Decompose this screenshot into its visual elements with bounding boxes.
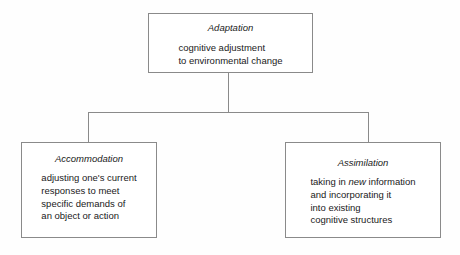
node-adaptation-body-line-1: cognitive adjustment bbox=[178, 42, 265, 53]
node-assimilation-body-line-1-suffix: information bbox=[366, 176, 416, 187]
node-assimilation-title: Assimilation bbox=[338, 158, 389, 168]
node-adaptation-body-line-2: to environmental change bbox=[178, 55, 282, 66]
node-assimilation-body-line-1: taking in new information bbox=[310, 176, 415, 187]
node-assimilation-body-line-4: cognitive structures bbox=[310, 214, 392, 225]
node-adaptation-title: Adaptation bbox=[208, 23, 253, 33]
node-assimilation: Assimilation taking in new information a… bbox=[285, 142, 441, 238]
node-assimilation-body-line-1-prefix: taking in bbox=[310, 176, 348, 187]
node-assimilation-body-line-2: and incorporating it bbox=[310, 189, 391, 200]
node-accommodation-body-line-1: adjusting one's current bbox=[41, 172, 136, 183]
node-accommodation-body-line-4: an object or action bbox=[41, 210, 119, 221]
node-adaptation-body: cognitive adjustment to environmental ch… bbox=[178, 42, 282, 67]
node-accommodation-body-line-2: responses to meet bbox=[41, 185, 119, 196]
node-accommodation-body: adjusting one's current responses to mee… bbox=[41, 172, 136, 222]
adaptation-concept-diagram: Adaptation cognitive adjustment to envir… bbox=[0, 0, 460, 255]
node-accommodation-title: Accommodation bbox=[55, 154, 123, 164]
node-adaptation: Adaptation cognitive adjustment to envir… bbox=[148, 13, 313, 73]
node-assimilation-body-line-1-emphasis: new bbox=[348, 176, 365, 187]
node-accommodation: Accommodation adjusting one's current re… bbox=[21, 142, 157, 238]
node-accommodation-body-line-3: specific demands of bbox=[41, 198, 125, 209]
node-assimilation-body-line-3: into existing bbox=[310, 202, 360, 213]
node-assimilation-body: taking in new information and incorporat… bbox=[310, 176, 415, 226]
